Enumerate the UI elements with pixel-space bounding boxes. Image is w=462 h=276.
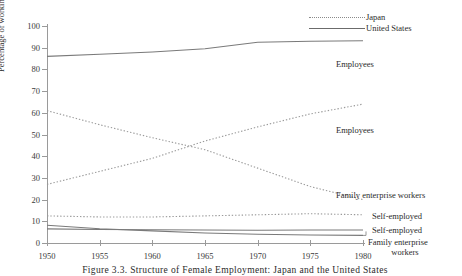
series-japan-employees — [47, 104, 363, 184]
annotation-japan-employees: Employees — [336, 126, 374, 136]
annotation-japan-family-enterprise-workers: Family enterprise workers — [336, 191, 425, 201]
annotation-us-family-enterprise-workers-line2: workers — [368, 248, 442, 258]
legend: Japan United States — [366, 12, 412, 34]
annotation-leader-bracket — [363, 231, 366, 235]
series-japan-family-enterprise-workers — [47, 111, 363, 200]
figure-caption: Figure 3.3. Structure of Female Employme… — [20, 264, 450, 276]
annotation-japan-self-employed: Self-employed — [372, 212, 422, 222]
legend-label-united-states: United States — [366, 23, 412, 33]
legend-item-united-states: United States — [366, 23, 412, 34]
legend-label-japan: Japan — [366, 12, 385, 22]
series-japan-self-employed — [47, 214, 363, 217]
series-united-states-self-employed — [47, 229, 363, 230]
annotation-us-self-employed: Self-employed — [372, 226, 422, 236]
legend-item-japan: Japan — [366, 12, 412, 23]
legend-swatch-united-states — [309, 28, 365, 29]
legend-swatch-japan — [309, 17, 365, 19]
annotation-us-employees: Employees — [336, 60, 374, 70]
series-united-states-employees — [47, 41, 363, 57]
